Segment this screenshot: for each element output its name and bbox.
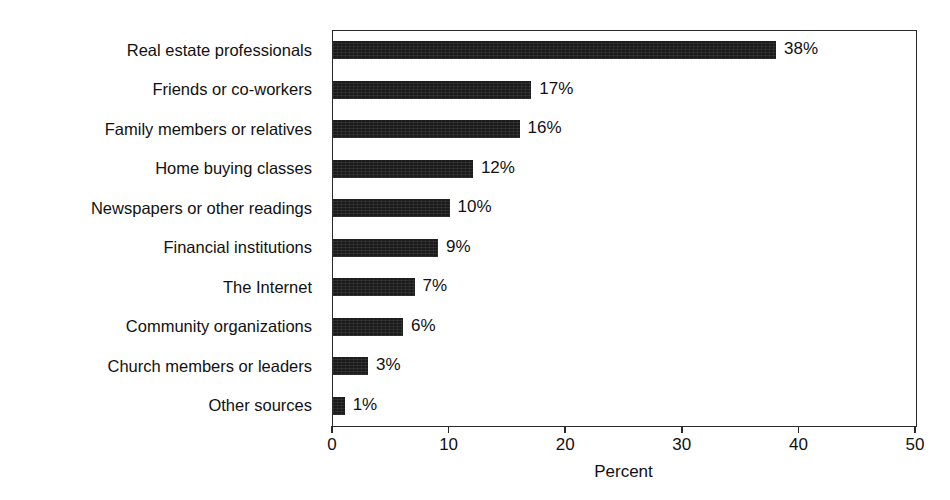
bar-row: 17% [333, 71, 916, 111]
bar-value-label: 16% [528, 117, 562, 139]
bar-value-label: 12% [481, 157, 515, 179]
category-label: Church members or leaders [0, 357, 322, 375]
bar-row: 6% [333, 308, 916, 348]
bar-row: 1% [333, 387, 916, 427]
bar[interactable] [333, 397, 345, 415]
bar-row: 12% [333, 150, 916, 190]
bar[interactable] [333, 278, 415, 296]
bar-value-label: 38% [784, 38, 818, 60]
category-label: Family members or relatives [0, 120, 322, 138]
bar-value-label: 6% [411, 315, 436, 337]
x-tick-mark [564, 426, 566, 433]
category-label: Newspapers or other readings [0, 199, 322, 217]
bar-row: 7% [333, 268, 916, 308]
category-label: Community organizations [0, 317, 322, 335]
x-tick-mark [914, 426, 916, 433]
x-tick-label: 10 [439, 435, 458, 455]
x-tick-label: 0 [327, 435, 336, 455]
bar[interactable] [333, 160, 473, 178]
category-label: Friends or co-workers [0, 80, 322, 98]
x-tick-mark [798, 426, 800, 433]
bar[interactable] [333, 199, 450, 217]
category-label: Real estate professionals [0, 41, 322, 59]
bar-row: 9% [333, 229, 916, 269]
bar[interactable] [333, 120, 520, 138]
bar[interactable] [333, 357, 368, 375]
x-tick-mark [681, 426, 683, 433]
x-axis-title: Percent [332, 462, 915, 482]
x-tick-label: 50 [906, 435, 925, 455]
x-tick-mark [331, 426, 333, 433]
category-label: Financial institutions [0, 238, 322, 256]
x-tick-label: 30 [672, 435, 691, 455]
bar-value-label: 10% [458, 196, 492, 218]
bar[interactable] [333, 41, 776, 59]
bar-value-label: 9% [446, 236, 471, 258]
x-tick-label: 40 [789, 435, 808, 455]
x-tick-mark [448, 426, 450, 433]
bar-value-label: 17% [539, 78, 573, 100]
bar[interactable] [333, 81, 531, 99]
bar-value-label: 7% [423, 275, 448, 297]
bar[interactable] [333, 239, 438, 257]
category-label: Home buying classes [0, 159, 322, 177]
figure-canvas: Real estate professionalsFriends or co-w… [0, 0, 950, 500]
bar-value-label: 1% [353, 394, 378, 416]
y-axis-category-labels: Real estate professionalsFriends or co-w… [0, 30, 322, 425]
bar-row: 3% [333, 347, 916, 387]
bar[interactable] [333, 318, 403, 336]
x-axis: Percent 01020304050 [332, 426, 915, 500]
bar-value-label: 3% [376, 354, 401, 376]
bar-row: 16% [333, 110, 916, 150]
category-label: The Internet [0, 278, 322, 296]
bar-row: 10% [333, 189, 916, 229]
bar-row: 38% [333, 31, 916, 71]
x-tick-label: 20 [556, 435, 575, 455]
category-label: Other sources [0, 396, 322, 414]
plot-area: 38%17%16%12%10%9%7%6%3%1% [332, 30, 917, 427]
